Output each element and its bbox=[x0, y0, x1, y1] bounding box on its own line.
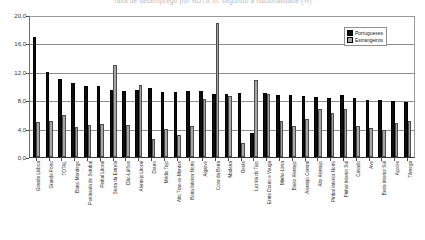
bar-estrangeiros bbox=[344, 109, 348, 157]
bar-estrangeiros bbox=[331, 113, 335, 157]
series-swatch-estrangeiros bbox=[347, 37, 353, 43]
bar-estrangeiros bbox=[177, 135, 181, 157]
bar-group bbox=[171, 17, 184, 157]
x-axis-category-label: Alto Alentejo bbox=[318, 161, 323, 187]
x-axis-category-label: Oeste bbox=[241, 161, 246, 173]
bar-group bbox=[388, 17, 401, 157]
x-axis-label-cell: Península de Setúbal bbox=[81, 161, 94, 240]
x-axis-category-label: Baixo Mondego bbox=[75, 161, 80, 193]
bar-estrangeiros bbox=[228, 96, 232, 157]
bar-estrangeiros bbox=[395, 123, 399, 157]
bar-estrangeiros bbox=[49, 121, 53, 157]
x-axis-label-cell: Pinhal Litoral bbox=[94, 161, 107, 240]
x-axis-category-label: Alto Trás-os-Montes bbox=[177, 161, 182, 202]
bar-group bbox=[30, 17, 43, 157]
x-axis-label-cell: Grande Lisboa bbox=[30, 161, 43, 240]
chart-legend: PortuguesesEstrangeiros bbox=[344, 27, 387, 46]
x-axis-label-cell: Pinhal Interior Norte bbox=[324, 161, 337, 240]
x-axis-category-label: Entre Douro e Vouga bbox=[267, 161, 272, 204]
bar-estrangeiros bbox=[216, 23, 220, 157]
x-axis-label-cell: Alentejo Central bbox=[299, 161, 312, 240]
x-axis-label-cell: Dão-Lafões bbox=[120, 161, 133, 240]
x-axis-category-label: Tâmega bbox=[408, 161, 413, 178]
bar-group bbox=[312, 17, 325, 157]
bar-estrangeiros bbox=[203, 99, 207, 157]
x-axis-category-label: Minho-Lima bbox=[280, 161, 285, 185]
bar-group bbox=[401, 17, 414, 157]
bar-group bbox=[120, 17, 133, 157]
x-axis-label-cell: TOTAL bbox=[56, 161, 69, 240]
x-axis-label-cell: Baixo Mondego bbox=[68, 161, 81, 240]
bar-group bbox=[184, 17, 197, 157]
bar-estrangeiros bbox=[267, 94, 271, 157]
x-axis-label-cell: Douro bbox=[145, 161, 158, 240]
x-axis-label-cell: Tâmega bbox=[401, 161, 414, 240]
x-axis-label-cell: Alto Trás-os-Montes bbox=[171, 161, 184, 240]
x-axis-category-label: Ave bbox=[369, 161, 374, 169]
chart-title: Taxa de desemprego por NUTS III, segundo… bbox=[0, 0, 425, 4]
bar-group bbox=[158, 17, 171, 157]
bar-estrangeiros bbox=[280, 121, 284, 157]
bar-estrangeiros bbox=[75, 127, 79, 157]
bar-group bbox=[68, 17, 81, 157]
bar-group bbox=[56, 17, 69, 157]
y-axis-tick-mark bbox=[26, 158, 29, 159]
x-axis-category-label: Médio Tejo bbox=[164, 161, 169, 183]
bar-group bbox=[222, 17, 235, 157]
x-axis-label-cell: Baixo Alentejo bbox=[286, 161, 299, 240]
bar-estrangeiros bbox=[62, 115, 66, 157]
bar-estrangeiros bbox=[126, 125, 130, 157]
x-axis-label-cell: Minho-Lima bbox=[273, 161, 286, 240]
bar-estrangeiros bbox=[292, 126, 296, 157]
x-axis-category-label: Pinhal Interior Sul bbox=[344, 161, 349, 197]
x-axis-category-label: Pinhal Interior Norte bbox=[331, 161, 336, 202]
x-axis-label-cell: Beira Interior Norte bbox=[184, 161, 197, 240]
x-axis-category-label: Serra da Estrela bbox=[113, 161, 118, 194]
x-axis-category-label: Beira Interior Sul bbox=[382, 161, 387, 195]
bar-estrangeiros bbox=[254, 80, 258, 157]
x-axis-category-label: Baixo Alentejo bbox=[292, 161, 297, 190]
bar-group bbox=[94, 17, 107, 157]
bar-group bbox=[260, 17, 273, 157]
bar-group bbox=[145, 17, 158, 157]
x-axis-category-label: Grande Porto bbox=[49, 161, 54, 189]
x-axis-label-cell: Cávado bbox=[350, 161, 363, 240]
legend-item: Estrangeiros bbox=[347, 37, 383, 44]
x-axis-category-label: Madeira bbox=[228, 161, 233, 178]
bar-group bbox=[107, 17, 120, 157]
x-axis-label-cell: Médio Tejo bbox=[158, 161, 171, 240]
x-axis-label-cell: Algarve bbox=[196, 161, 209, 240]
x-axis-label-cell: Alto Alentejo bbox=[312, 161, 325, 240]
bar-group bbox=[299, 17, 312, 157]
bar-estrangeiros bbox=[318, 109, 322, 157]
x-axis-category-label: Cávado bbox=[356, 161, 361, 177]
bar-estrangeiros bbox=[382, 130, 386, 157]
x-axis-label-cell: Madeira bbox=[222, 161, 235, 240]
bar-group bbox=[209, 17, 222, 157]
bar-group bbox=[248, 17, 261, 157]
bar-estrangeiros bbox=[139, 85, 143, 157]
bar-group bbox=[286, 17, 299, 157]
bar-estrangeiros bbox=[356, 126, 360, 157]
x-axis-labels: Grande LisboaGrande PortoTOTALBaixo Mond… bbox=[30, 161, 414, 240]
x-axis-category-label: Alentejo Litoral bbox=[139, 161, 144, 191]
x-axis-category-label: Algarve bbox=[203, 161, 208, 177]
bar-group bbox=[81, 17, 94, 157]
bar-estrangeiros bbox=[100, 124, 104, 157]
x-axis-category-label: Lezíria do Tejo bbox=[254, 161, 259, 191]
x-axis-category-label: Grande Lisboa bbox=[36, 161, 41, 191]
x-axis-label-cell: Oeste bbox=[235, 161, 248, 240]
bar-estrangeiros bbox=[305, 119, 309, 158]
bar-estrangeiros bbox=[113, 65, 117, 157]
x-axis-category-label: Beira Interior Norte bbox=[190, 161, 195, 200]
x-axis-category-label: Dão-Lafões bbox=[126, 161, 131, 185]
x-axis-category-label: Península de Setúbal bbox=[88, 161, 93, 205]
x-axis-category-label: Alentejo Central bbox=[305, 161, 310, 194]
x-axis-label-cell: Alentejo Litoral bbox=[132, 161, 145, 240]
legend-label: Estrangeiros bbox=[355, 37, 383, 44]
x-axis-label-cell: Entre Douro e Vouga bbox=[260, 161, 273, 240]
bar-estrangeiros bbox=[369, 128, 373, 157]
x-axis-category-label: Douro bbox=[152, 161, 157, 174]
x-axis-category-label: Açores bbox=[395, 161, 400, 175]
chart-title-strip: Taxa de desemprego por NUTS III, segundo… bbox=[0, 0, 425, 10]
